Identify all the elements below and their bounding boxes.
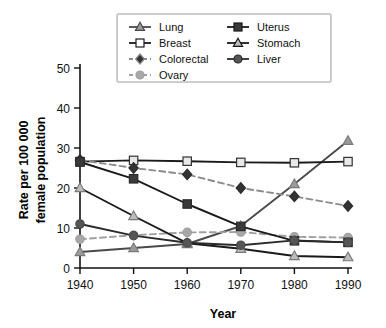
x-tick-label: 1940 (67, 278, 94, 292)
y-axis-ticks: 01020304050 (57, 62, 80, 276)
series-line-breast (80, 160, 348, 162)
series-breast (76, 156, 352, 167)
data-point-marker-diamond (290, 191, 299, 202)
data-point-marker-circle (234, 55, 242, 63)
data-point-marker-diamond (236, 183, 245, 194)
data-point-marker-circle (183, 228, 191, 236)
x-axis-ticks: 194019501960197019801990 (67, 268, 362, 292)
chart-container: 01020304050 194019501960197019801990 Yea… (0, 0, 386, 328)
data-point-marker-square (234, 23, 242, 31)
y-axis-title-line-2: female population (34, 117, 48, 224)
data-point-marker-circle (237, 241, 245, 249)
legend-label-colorectal: Colorectal (159, 53, 209, 65)
y-tick-label: 50 (57, 62, 71, 76)
legend-item-colorectal[interactable]: Colorectal (129, 53, 209, 65)
x-tick-label: 1990 (335, 278, 362, 292)
y-axis-title-line-1: Rate per 100 000 (17, 121, 31, 220)
chart-legend: LungUterusBreastStomachColorectalLiverOv… (117, 14, 331, 82)
legend-label-uterus: Uterus (257, 21, 290, 33)
data-point-marker-circle (183, 239, 191, 247)
legend-label-lung: Lung (159, 21, 183, 33)
data-point-marker-square (237, 222, 245, 230)
data-point-marker-square-open (344, 157, 352, 165)
data-point-marker-circle (129, 231, 137, 239)
data-point-marker-circle (136, 71, 144, 79)
y-tick-label: 40 (57, 102, 71, 116)
x-tick-label: 1970 (227, 278, 254, 292)
cancer-mortality-line-chart: 01020304050 194019501960197019801990 Yea… (0, 0, 386, 328)
data-point-marker-square (129, 175, 137, 183)
x-tick-label: 1980 (281, 278, 308, 292)
series-line-colorectal (80, 160, 348, 206)
x-tick-label: 1950 (120, 278, 147, 292)
data-point-marker-square-open (237, 158, 245, 166)
y-tick-label: 20 (57, 182, 71, 196)
data-point-marker-square-open (136, 39, 144, 47)
y-tick-label: 30 (57, 142, 71, 156)
x-axis-title: Year (210, 307, 237, 321)
data-point-marker-square-open (290, 159, 298, 167)
data-point-marker-circle (76, 235, 84, 243)
data-point-marker-square (76, 158, 84, 166)
data-point-marker-diamond (183, 169, 192, 180)
data-point-marker-triangle-open (75, 183, 85, 192)
legend-label-breast: Breast (159, 37, 191, 49)
data-point-marker-diamond (343, 201, 352, 212)
data-point-marker-circle (76, 220, 84, 228)
legend-label-liver: Liver (257, 53, 281, 65)
y-tick-label: 0 (63, 262, 70, 276)
data-series-layer (75, 136, 353, 261)
legend-label-ovary: Ovary (159, 69, 189, 81)
legend-item-uterus[interactable]: Uterus (227, 21, 290, 33)
legend-item-breast[interactable]: Breast (129, 37, 191, 49)
data-point-marker-square-open (183, 157, 191, 165)
y-tick-label: 10 (57, 222, 71, 236)
legend-label-stomach: Stomach (257, 37, 300, 49)
data-point-marker-triangle (343, 136, 353, 145)
data-point-marker-circle (344, 238, 352, 246)
x-tick-label: 1960 (174, 278, 201, 292)
data-point-marker-circle (290, 236, 298, 244)
data-point-marker-square (183, 200, 191, 208)
